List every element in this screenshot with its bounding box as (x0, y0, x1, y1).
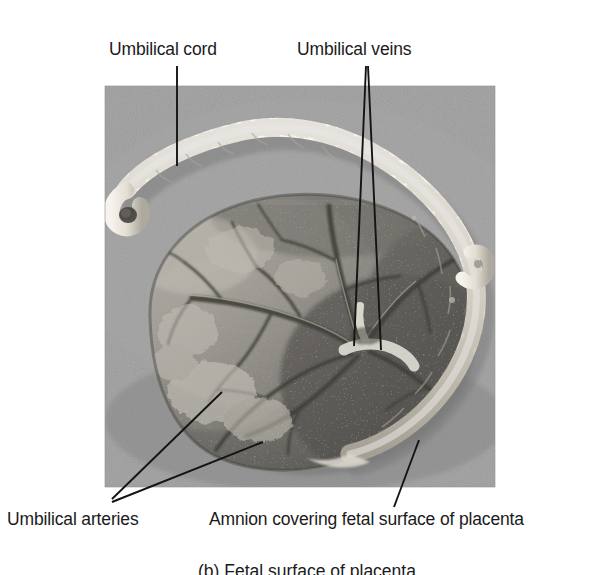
placenta-figure: Umbilical cord Umbilical veins Umbilical… (0, 0, 614, 575)
leader-umbilical-artery-1 (112, 392, 222, 499)
placenta-photograph (0, 0, 614, 575)
label-umbilical-cord: Umbilical cord (109, 41, 217, 59)
figure-caption: (b) Fetal surface of placenta (0, 561, 614, 575)
leader-lines (112, 66, 419, 507)
umbilical-cord (112, 127, 489, 467)
leader-umbilical-vein-1 (354, 66, 366, 346)
label-amnion-covering-fetal-surface: Amnion covering fetal surface of placent… (209, 511, 524, 529)
leader-amnion (394, 440, 419, 507)
placenta-disc (123, 173, 520, 490)
leader-umbilical-artery-2 (112, 442, 263, 502)
label-umbilical-arteries: Umbilical arteries (7, 511, 139, 529)
leader-umbilical-vein-2 (368, 66, 381, 350)
photo-plate (70, 86, 530, 492)
label-umbilical-veins: Umbilical veins (297, 41, 411, 59)
